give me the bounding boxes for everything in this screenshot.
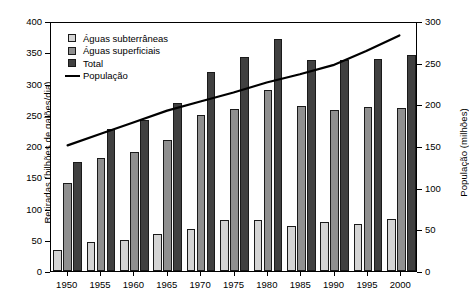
legend-swatch-ground-icon xyxy=(68,34,76,42)
x-axis-tick xyxy=(100,272,101,276)
x-axis-tick xyxy=(400,272,401,276)
legend-swatch-surface-icon xyxy=(68,47,76,55)
y-axis-right-tick xyxy=(417,189,422,190)
legend-item-3: Total xyxy=(68,57,168,70)
x-axis-tick xyxy=(267,272,268,276)
legend-item-1: Águas subterrâneas xyxy=(68,32,168,45)
y-axis-right-tick xyxy=(417,272,422,273)
y-axis-left-tick-label: 350 xyxy=(2,48,42,58)
y-axis-right-tick-label: 300 xyxy=(425,17,465,27)
y-axis-left-tick xyxy=(45,272,50,273)
y-axis-right-tick-label: 0 xyxy=(425,267,465,277)
y-axis-right-tick-label: 200 xyxy=(425,100,465,110)
y-axis-left-tick xyxy=(45,85,50,86)
y-axis-right-tick xyxy=(417,22,422,23)
y-axis-left-tick xyxy=(45,178,50,179)
legend-swatch-total-icon xyxy=(68,59,76,67)
y-axis-left-tick-label: 100 xyxy=(2,205,42,215)
x-axis-tick xyxy=(334,272,335,276)
x-axis-tick xyxy=(300,272,301,276)
x-axis-tick xyxy=(200,272,201,276)
y-axis-left-tick-label: 0 xyxy=(2,267,42,277)
x-axis-tick xyxy=(367,272,368,276)
y-axis-left-tick-label: 50 xyxy=(2,236,42,246)
y-axis-left-tick xyxy=(45,210,50,211)
y-axis-left-tick-label: 300 xyxy=(2,80,42,90)
y-axis-left-tick-label: 400 xyxy=(2,17,42,27)
x-axis-tick xyxy=(234,272,235,276)
y-axis-left-tick xyxy=(45,147,50,148)
y-axis-right-tick xyxy=(417,147,422,148)
legend-item-2: Águas superficiais xyxy=(68,45,168,58)
y-axis-left-tick-label: 250 xyxy=(2,111,42,121)
x-axis-tick xyxy=(67,272,68,276)
y-axis-right-tick-label: 100 xyxy=(425,184,465,194)
y-axis-left-tick xyxy=(45,241,50,242)
y-axis-left-tick xyxy=(45,53,50,54)
y-axis-left-tick-label: 200 xyxy=(2,142,42,152)
chart-legend: Águas subterrâneasÁguas superficiaisTota… xyxy=(68,32,168,82)
legend-item-label: Águas subterrâneas xyxy=(83,33,168,44)
y-axis-right-tick xyxy=(417,230,422,231)
legend-item-label: População xyxy=(83,70,128,81)
y-axis-right-tick xyxy=(417,105,422,106)
y-axis-left-tick xyxy=(45,116,50,117)
legend-item-label: Águas superficiais xyxy=(83,45,160,56)
legend-item-4: População xyxy=(68,70,168,83)
x-axis-tick xyxy=(133,272,134,276)
legend-line-icon xyxy=(65,75,80,77)
y-axis-left-tick xyxy=(45,22,50,23)
y-axis-right-tick-label: 150 xyxy=(425,142,465,152)
y-axis-right-tick-label: 250 xyxy=(425,59,465,69)
y-axis-left-tick-label: 150 xyxy=(2,173,42,183)
y-axis-right-tick-label: 50 xyxy=(425,225,465,235)
x-axis-tick-label: 2000 xyxy=(380,279,420,290)
y-axis-right-tick xyxy=(417,64,422,65)
x-axis-tick xyxy=(167,272,168,276)
legend-item-label: Total xyxy=(83,58,103,69)
